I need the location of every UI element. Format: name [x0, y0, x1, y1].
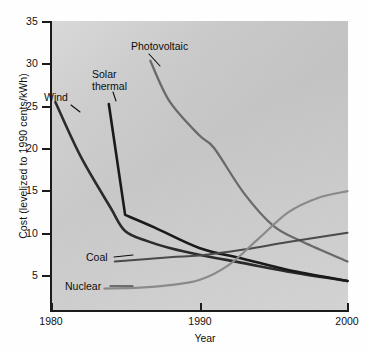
leader-wind [71, 105, 80, 112]
series-label-photovoltaic: Photovoltaic [131, 41, 188, 53]
series-label-coal: Coal [86, 252, 108, 264]
leader-solar-thermal [113, 92, 116, 101]
series-curves [0, 0, 368, 352]
series-path-photovoltaic [150, 61, 347, 262]
series-label-wind: Wind [44, 92, 68, 104]
series-label-solar-thermal: Solarthermal [92, 69, 127, 92]
series-path-solar-thermal [109, 104, 348, 281]
chart-figure: 35 30 25 20 15 10 5 1980 1990 2000 Cost … [0, 0, 368, 352]
series-label-nuclear: Nuclear [65, 281, 101, 293]
leader-coal [114, 255, 133, 257]
